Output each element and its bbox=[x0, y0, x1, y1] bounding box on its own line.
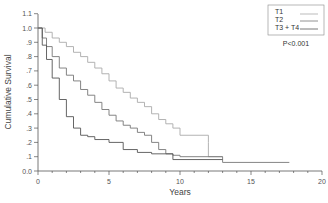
y-tick-label: 0.0 bbox=[22, 168, 32, 175]
legend: T1 T2 T3 + T4 bbox=[268, 5, 324, 35]
legend-label-t1: T1 bbox=[275, 8, 283, 15]
legend-label-t2: T2 bbox=[275, 16, 283, 23]
y-tick-label: 1.1 bbox=[22, 10, 32, 17]
y-tick-label: .8 bbox=[26, 53, 32, 60]
x-axis-label: Years bbox=[169, 187, 190, 197]
y-tick-label: .6 bbox=[26, 82, 32, 89]
x-tick-label: 5 bbox=[107, 178, 111, 185]
legend-label-t3t4: T3 + T4 bbox=[275, 24, 299, 31]
km-chart: 0.0.1.2.3.4.5.6.7.8.91.01.1 05101520 Cum… bbox=[0, 0, 328, 203]
curve-t1 bbox=[38, 28, 223, 157]
x-axis: 05101520 bbox=[36, 171, 326, 185]
p-value: P<0.001 bbox=[283, 40, 309, 47]
y-tick-label: .1 bbox=[26, 153, 32, 160]
y-tick-label: .9 bbox=[26, 39, 32, 46]
y-axis: 0.0.1.2.3.4.5.6.7.8.91.01.1 bbox=[22, 10, 38, 174]
x-tick-label: 15 bbox=[247, 178, 255, 185]
y-tick-label: 1.0 bbox=[22, 25, 32, 32]
y-tick-label: .7 bbox=[26, 67, 32, 74]
y-tick-label: .2 bbox=[26, 139, 32, 146]
x-tick-label: 20 bbox=[318, 178, 326, 185]
x-tick-label: 10 bbox=[176, 178, 184, 185]
curve-t2 bbox=[38, 28, 289, 162]
survival-curves bbox=[38, 28, 289, 162]
y-tick-label: .5 bbox=[26, 96, 32, 103]
y-axis-label: Cumulative Survival bbox=[3, 54, 13, 129]
x-tick-label: 0 bbox=[36, 178, 40, 185]
y-tick-label: .3 bbox=[26, 125, 32, 132]
y-tick-label: .4 bbox=[26, 110, 32, 117]
